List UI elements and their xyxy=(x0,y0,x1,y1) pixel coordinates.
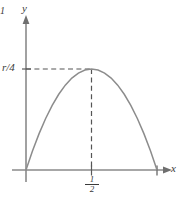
y-axis-arrowhead xyxy=(23,15,30,24)
fraction-denominator: 2 xyxy=(85,185,99,194)
parabola-figure: y x r/4 1 2 1 xyxy=(0,0,181,205)
y-tick-label-r4: r/4 xyxy=(2,62,15,73)
x-axis-label: x xyxy=(171,163,176,174)
x-tick-label-half: 1 2 xyxy=(85,175,99,195)
y-axis-label: y xyxy=(22,3,27,14)
